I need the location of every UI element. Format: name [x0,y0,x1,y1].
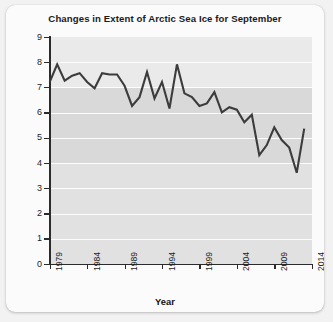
chart-card: Changes in Extent of Arctic Sea Ice for … [6,5,324,312]
sea-ice-extent-series [50,64,305,172]
series-line-chart [6,5,324,312]
